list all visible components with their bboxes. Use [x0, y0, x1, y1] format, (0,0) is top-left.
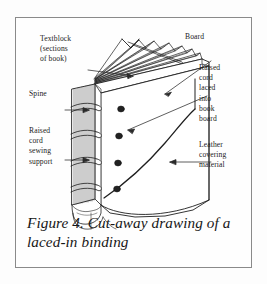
label-raised-cord-sewing-support: Raised cord sewing support: [29, 126, 75, 167]
label-board: Board: [185, 32, 233, 42]
label-spine: Spine: [29, 89, 69, 99]
label-textblock: Textblock (sections of book): [40, 34, 104, 65]
front-board: [101, 66, 209, 217]
figure-page: Textblock (sections of book) Board Spine…: [0, 0, 267, 284]
label-raised-cord-laced-into-book-board: Raised cord laced into book board: [199, 63, 249, 124]
figure-caption: Figure 4. Cut-away drawing of a laced-in…: [27, 213, 242, 251]
label-leather-covering-material: Leather covering material: [199, 140, 251, 171]
spine: [72, 84, 101, 205]
